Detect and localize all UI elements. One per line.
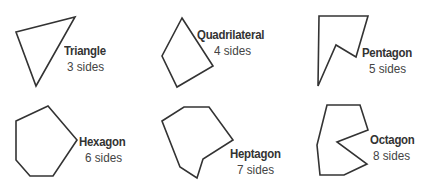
hexagon-label: Hexagon: [79, 135, 125, 148]
polygons-diagram: Triangle 3 sides Quadrilateral 4 sides P…: [0, 0, 437, 192]
hexagon-shape: [16, 106, 77, 176]
heptagon-shape: [162, 107, 233, 178]
quadrilateral-label: Quadrilateral: [197, 28, 264, 41]
octagon-shape: [317, 105, 368, 175]
triangle-sides: 3 sides: [67, 60, 104, 73]
triangle-label: Triangle: [64, 44, 106, 57]
heptagon-label: Heptagon: [230, 147, 281, 160]
octagon-sides: 8 sides: [373, 149, 410, 162]
quadrilateral-sides: 4 sides: [214, 44, 251, 57]
pentagon-sides: 5 sides: [369, 62, 406, 75]
hexagon-sides: 6 sides: [85, 151, 122, 164]
pentagon-shape: [318, 16, 368, 86]
heptagon-sides: 7 sides: [237, 163, 274, 176]
octagon-label: Octagon: [370, 133, 415, 146]
pentagon-label: Pentagon: [362, 46, 412, 59]
